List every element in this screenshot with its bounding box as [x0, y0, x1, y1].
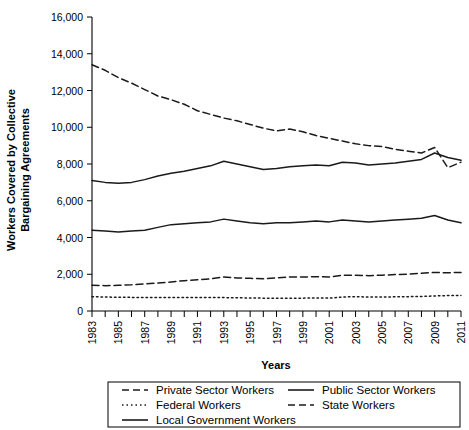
series-line-federal-workers [92, 295, 461, 298]
legend: Private Sector WorkersPublic Sector Work… [122, 384, 436, 426]
y-tick-label: 14,000 [51, 48, 83, 60]
x-tick-label: 1993 [218, 321, 230, 345]
y-tick-label: 8,000 [57, 158, 83, 170]
x-tick-label: 1987 [139, 321, 151, 345]
y-tick-label: 16,000 [51, 11, 83, 23]
y-tick-label: 4,000 [57, 232, 83, 244]
series-line-public-sector-workers [92, 153, 461, 183]
y-tick-label: 12,000 [51, 85, 83, 97]
legend-label-local-government-workers: Local Government Workers [156, 414, 296, 426]
y-tick-label: 6,000 [57, 195, 83, 207]
y-tick-label: 0 [77, 305, 83, 317]
y-tick-label: 10,000 [51, 121, 83, 133]
series-line-local-government-workers [92, 215, 461, 232]
chart-container: Workers Covered by Collective Bargaining… [0, 0, 469, 430]
x-tick-label: 2005 [376, 321, 388, 345]
legend-label-federal-workers: Federal Workers [156, 399, 241, 411]
y-axis-ticks: 02,0004,0006,0008,00010,00012,00014,0001… [51, 11, 92, 317]
series-line-state-workers [92, 272, 461, 285]
x-tick-label: 1991 [191, 321, 203, 345]
y-axis-title-line2: Bargaining Agreements [19, 108, 31, 232]
x-tick-label: 1995 [244, 321, 256, 345]
x-tick-label: 2009 [429, 321, 441, 345]
x-tick-label: 2007 [402, 321, 414, 345]
x-tick-label: 1997 [271, 321, 283, 345]
y-axis-title-line1: Workers Covered by Collective [5, 89, 17, 251]
x-tick-label: 2003 [350, 321, 362, 345]
legend-label-public-sector-workers: Public Sector Workers [322, 384, 436, 396]
x-axis-ticks: 1983198519871989199119931995199719992001… [86, 311, 467, 344]
x-tick-label: 2001 [323, 321, 335, 345]
x-tick-label: 1989 [165, 321, 177, 345]
series-line-private-sector-workers [92, 65, 461, 168]
x-tick-label: 1985 [112, 321, 124, 345]
x-axis-title: Years [261, 359, 290, 371]
y-tick-label: 2,000 [57, 268, 83, 280]
legend-label-state-workers: State Workers [322, 399, 395, 411]
x-tick-label: 1999 [297, 321, 309, 345]
x-tick-label: 1983 [86, 321, 98, 345]
legend-label-private-sector-workers: Private Sector Workers [156, 384, 274, 396]
line-chart: Workers Covered by Collective Bargaining… [0, 0, 469, 430]
series-lines [92, 65, 461, 298]
x-tick-label: 2011 [455, 321, 467, 344]
